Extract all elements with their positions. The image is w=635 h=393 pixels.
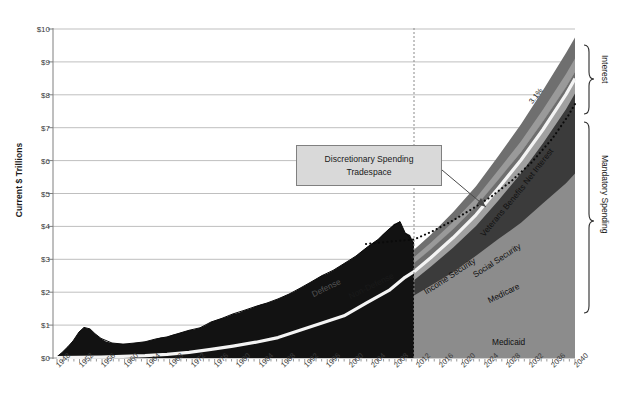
y-tick-4: $4	[20, 222, 50, 231]
y-tick-7: $7	[20, 123, 50, 132]
spending-area-chart: Current $ Trillions $0$1$2$3$4$5$6$7$8$9…	[0, 0, 635, 393]
bracket-label-interest: Interest	[600, 55, 610, 83]
y-tick-3: $3	[20, 255, 50, 264]
y-tick-9: $9	[20, 57, 50, 66]
y-tick-1: $1	[20, 321, 50, 330]
y-tick-6: $6	[20, 156, 50, 165]
discretionary-tradespace-callout: Discretionary Spending Tradespace	[296, 145, 442, 186]
callout-line-2: Tradespace	[346, 166, 391, 178]
callout-line-1: Discretionary Spending	[325, 153, 414, 165]
y-tick-10: $10	[20, 25, 50, 34]
y-tick-0: $0	[20, 354, 50, 363]
bracket-label-mandatory: Mandatory Spending	[600, 155, 610, 233]
y-tick-5: $5	[20, 189, 50, 198]
area-defense-discretionary	[57, 222, 414, 359]
y-tick-8: $8	[20, 90, 50, 99]
stacked-areas	[57, 38, 575, 359]
y-tick-2: $2	[20, 288, 50, 297]
chart-canvas	[0, 0, 635, 393]
right-brackets	[584, 45, 594, 313]
